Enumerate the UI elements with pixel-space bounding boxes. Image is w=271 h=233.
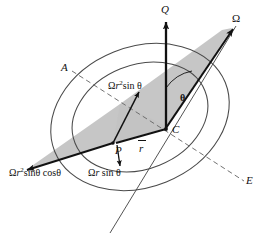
sin-cos-theta-glyph-3: sinθ cosθ	[24, 167, 61, 178]
label-omega-r-sin-theta: Ωr sin θ	[88, 168, 121, 178]
physics-vector-diagram: Q Ω A E C P r θ Ωr2sin θ Ωr sin θ Ωr2sin…	[0, 0, 271, 233]
shaded-plane-region	[26, 28, 232, 170]
label-vector-omega: Ω	[232, 13, 240, 24]
label-angle-theta: θ	[180, 93, 185, 103]
label-point-p: P	[115, 145, 122, 156]
sin-theta-glyph-2: sin θ	[102, 167, 121, 178]
label-point-a: A	[61, 62, 68, 73]
label-point-c: C	[172, 124, 179, 135]
sin-theta-glyph-1: sin θ	[123, 80, 142, 91]
diagram-canvas	[0, 0, 271, 233]
label-omega-r2-sin-cos-theta: Ωr2sinθ cosθ	[9, 167, 61, 178]
r-overbar	[138, 140, 146, 141]
point-c-dot	[164, 127, 168, 131]
label-point-q: Q	[161, 4, 169, 15]
label-point-e: E	[246, 175, 253, 186]
label-vector-r: r	[139, 143, 143, 154]
r-glyph-2: r	[95, 167, 99, 178]
label-omega-r2-sin-theta: Ωr2sin θ	[108, 80, 142, 91]
